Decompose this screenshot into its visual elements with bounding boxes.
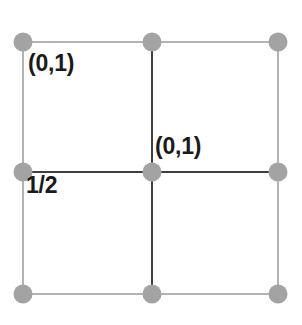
- node-center: [143, 163, 162, 182]
- diagram-canvas: (0,1) (0,1) 1/2: [0, 0, 302, 325]
- grid-diagram: [0, 0, 302, 325]
- node-top-left: [14, 33, 33, 52]
- node-middle-right: [269, 163, 288, 182]
- label-lower-left-edge: 1/2: [26, 174, 57, 197]
- node-bottom-left: [14, 285, 33, 304]
- label-top-left-cell: (0,1): [28, 52, 74, 75]
- node-top-center: [143, 33, 162, 52]
- node-bottom-right: [269, 285, 288, 304]
- node-bottom-center: [143, 285, 162, 304]
- label-center-vertex: (0,1): [155, 135, 201, 158]
- node-top-right: [269, 33, 288, 52]
